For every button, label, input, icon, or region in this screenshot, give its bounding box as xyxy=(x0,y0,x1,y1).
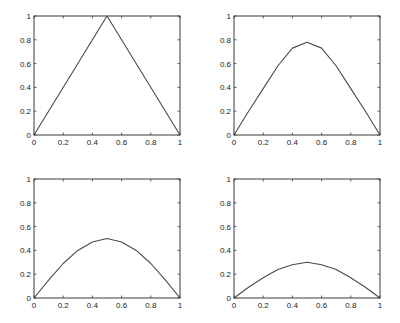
y-tick-label: 0.8 xyxy=(220,36,232,45)
y-tick-label: 0 xyxy=(27,131,32,140)
x-tick-label: 1 xyxy=(378,301,383,310)
y-tick-label: 0.4 xyxy=(220,83,232,92)
x-tick-label: 0.2 xyxy=(258,138,270,147)
subplot-4: 00.20.40.60.8100.20.40.60.81 xyxy=(220,175,383,310)
y-tick-label: 1 xyxy=(27,12,32,21)
y-tick-label: 0.8 xyxy=(220,199,232,208)
x-tick-label: 0 xyxy=(32,138,37,147)
y-tick-label: 0 xyxy=(227,294,232,303)
y-tick-label: 0.6 xyxy=(220,60,232,69)
y-tick-label: 1 xyxy=(227,12,232,21)
y-tick-label: 0.2 xyxy=(220,270,232,279)
x-tick-label: 1 xyxy=(178,301,183,310)
x-tick-label: 0.2 xyxy=(58,138,70,147)
axes-frame xyxy=(234,179,380,298)
y-tick-label: 0.2 xyxy=(20,270,32,279)
y-tick-label: 0.8 xyxy=(20,199,32,208)
x-tick-label: 0.8 xyxy=(345,301,357,310)
x-tick-label: 1 xyxy=(378,138,383,147)
y-tick-label: 0 xyxy=(27,294,32,303)
data-line xyxy=(34,16,180,135)
y-tick-label: 0.2 xyxy=(20,107,32,116)
subplot-2: 00.20.40.60.8100.20.40.60.81 xyxy=(220,12,383,147)
subplot-1: 00.20.40.60.8100.20.40.60.81 xyxy=(20,12,183,147)
x-tick-label: 0 xyxy=(32,301,37,310)
x-tick-label: 0 xyxy=(232,138,237,147)
figure: 00.20.40.60.8100.20.40.60.81 00.20.40.60… xyxy=(0,0,400,323)
x-tick-label: 0.6 xyxy=(316,301,328,310)
x-tick-label: 0.2 xyxy=(258,301,270,310)
x-tick-label: 1 xyxy=(178,138,183,147)
x-tick-label: 0.8 xyxy=(145,301,157,310)
y-tick-label: 0.8 xyxy=(20,36,32,45)
x-tick-label: 0.8 xyxy=(345,138,357,147)
subplot-3: 00.20.40.60.8100.20.40.60.81 xyxy=(20,175,183,310)
x-tick-label: 0.4 xyxy=(287,301,299,310)
x-tick-label: 0.4 xyxy=(287,138,299,147)
y-tick-label: 0.6 xyxy=(220,223,232,232)
y-tick-label: 0.4 xyxy=(220,246,232,255)
axes-frame xyxy=(234,16,380,135)
x-tick-label: 0.8 xyxy=(145,138,157,147)
y-tick-label: 0.4 xyxy=(20,246,32,255)
data-line xyxy=(234,42,380,135)
y-tick-label: 0.6 xyxy=(20,223,32,232)
x-tick-label: 0.6 xyxy=(316,138,328,147)
y-tick-label: 1 xyxy=(227,175,232,184)
y-tick-label: 0.6 xyxy=(20,60,32,69)
y-tick-label: 0.4 xyxy=(20,83,32,92)
data-line xyxy=(34,239,180,299)
x-tick-label: 0.6 xyxy=(116,138,128,147)
y-tick-label: 0.2 xyxy=(220,107,232,116)
y-tick-label: 1 xyxy=(27,175,32,184)
x-tick-label: 0.4 xyxy=(87,138,99,147)
data-line xyxy=(234,262,380,298)
y-tick-label: 0 xyxy=(227,131,232,140)
x-tick-label: 0 xyxy=(232,301,237,310)
x-tick-label: 0.2 xyxy=(58,301,70,310)
x-tick-label: 0.4 xyxy=(87,301,99,310)
x-tick-label: 0.6 xyxy=(116,301,128,310)
axes-frame xyxy=(34,16,180,135)
